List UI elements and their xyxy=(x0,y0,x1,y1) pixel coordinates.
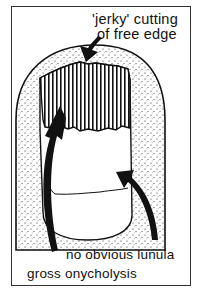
label-no-obvious-lunula: no obvious lunula xyxy=(66,247,174,263)
label-free-edge: of free edge xyxy=(97,26,177,42)
label-jerky-cutting: 'jerky' cutting xyxy=(92,11,178,27)
label-gross-onycholysis: gross onycholysis xyxy=(27,266,137,282)
